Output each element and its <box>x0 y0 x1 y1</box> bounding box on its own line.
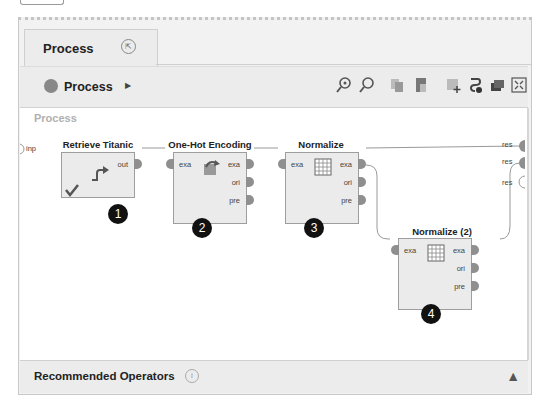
process-icon <box>44 79 58 93</box>
port-knob[interactable] <box>278 159 286 169</box>
fit-view-icon[interactable] <box>510 76 528 94</box>
port-pre[interactable]: pre <box>341 196 352 205</box>
output-port-res-3[interactable]: res <box>502 178 512 187</box>
step-badge-1: 1 <box>108 204 128 224</box>
port-pre[interactable]: pre <box>229 196 240 205</box>
operator-normalize[interactable]: exa exa ori pre <box>285 152 359 224</box>
port-pre[interactable]: pre <box>454 282 465 291</box>
zoom-out-icon[interactable] <box>358 76 376 94</box>
port-out[interactable]: out <box>118 160 128 169</box>
recommended-operators-panel: Recommended Operators i ▲ <box>20 360 528 393</box>
tab-label: Process <box>43 41 94 56</box>
port-knob[interactable] <box>391 245 399 255</box>
port-exa-out[interactable]: exa <box>340 160 352 169</box>
port-exa-out[interactable]: exa <box>228 160 240 169</box>
table-grid-icon <box>427 244 445 266</box>
breadcrumb[interactable]: Process <box>64 80 113 94</box>
triangle-right-icon[interactable]: ▶ <box>125 81 131 90</box>
paste-icon[interactable] <box>412 76 430 94</box>
recommended-operators-label: Recommended Operators <box>34 370 175 382</box>
port-exa-out[interactable]: exa <box>453 246 465 255</box>
port-ori[interactable]: ori <box>232 178 240 187</box>
operator-normalize-2[interactable]: exa exa ori pre <box>398 238 472 310</box>
layers-icon[interactable] <box>488 76 506 94</box>
operator-title: Normalize (2) <box>392 226 492 237</box>
operator-retrieve-titanic[interactable]: out <box>61 152 135 198</box>
input-port-inp[interactable]: inp <box>26 144 36 153</box>
operator-one-hot-encoding[interactable]: exa exa ori pre <box>173 152 247 224</box>
copy-icon[interactable] <box>388 76 406 94</box>
restore-icon[interactable]: ⇱ <box>121 39 136 54</box>
operator-title: One-Hot Encoding <box>165 139 255 150</box>
port-exa-in[interactable]: exa <box>179 160 191 169</box>
process-canvas[interactable]: Process inp res res res Retrieve Titanic… <box>20 108 528 360</box>
output-port-bar <box>527 108 529 360</box>
step-badge-2: 2 <box>192 218 212 238</box>
operator-title: Retrieve Titanic <box>61 139 135 150</box>
top-stub-button[interactable] <box>20 0 64 5</box>
port-ori[interactable]: ori <box>457 264 465 273</box>
process-panel: Process ⇱ Process ▶ Proce <box>18 17 532 395</box>
port-knob[interactable] <box>166 159 174 169</box>
encode-icon <box>200 159 222 181</box>
port-exa-in[interactable]: exa <box>291 160 303 169</box>
process-toolbar: Process ▶ <box>20 66 528 108</box>
tab-process[interactable]: Process ⇱ <box>24 29 158 66</box>
chevron-up-icon[interactable]: ▲ <box>506 368 520 384</box>
port-exa-in[interactable]: exa <box>404 246 416 255</box>
table-grid-icon <box>314 158 332 180</box>
step-badge-4: 4 <box>421 304 441 324</box>
output-port-res-1[interactable]: res <box>502 140 512 149</box>
operator-title: Normalize <box>284 139 358 150</box>
info-icon[interactable]: i <box>185 369 199 383</box>
add-note-icon[interactable] <box>444 76 462 94</box>
output-port-res-2[interactable]: res <box>502 157 512 166</box>
zoom-in-icon[interactable] <box>335 76 353 94</box>
auto-wire-icon[interactable] <box>466 76 484 94</box>
retrieve-arrow-icon <box>89 163 111 187</box>
step-badge-3: 3 <box>304 218 324 238</box>
port-ori[interactable]: ori <box>344 178 352 187</box>
tab-divider <box>156 64 531 65</box>
check-icon <box>64 183 80 201</box>
